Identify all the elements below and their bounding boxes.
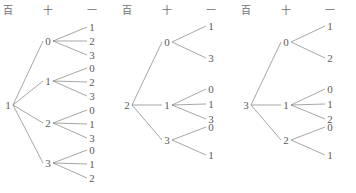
edge-tens-0-to-ones-0	[291, 26, 325, 42]
edge-tens-0-to-ones-0	[53, 27, 87, 41]
edge-root-to-tens-0	[132, 42, 162, 105]
node-ones-digit: 1	[89, 119, 95, 130]
tree-edges-2	[119, 0, 237, 193]
node-tens-digit: 1	[45, 76, 51, 87]
node-tens-digit: 0	[283, 37, 289, 48]
edge-tens-1-to-ones-0	[291, 89, 325, 105]
node-tens-digit: 0	[164, 37, 170, 48]
node-tens-digit: 2	[283, 135, 289, 146]
node-ones-digit: 0	[89, 105, 95, 116]
tree-diagram-figure: 百十一10123102320133012百十一20131013301百十一301…	[0, 0, 356, 193]
edge-tens-2-to-ones-1	[291, 140, 325, 155]
edge-root-to-tens-2	[132, 105, 162, 140]
node-tens-digit: 1	[283, 100, 289, 111]
edge-tens-1-to-ones-0	[53, 68, 87, 81]
edge-tens-1-to-ones-1	[172, 104, 206, 105]
node-hundreds-digit: 2	[124, 100, 130, 111]
tree-panel-2: 百十一20131013301	[119, 0, 237, 193]
edge-tens-2-to-ones-2	[53, 123, 87, 138]
node-ones-digit: 0	[327, 84, 333, 95]
node-ones-digit: 2	[89, 36, 95, 47]
node-ones-digit: 0	[327, 122, 333, 133]
node-ones-digit: 1	[89, 22, 95, 33]
node-ones-digit: 3	[89, 133, 95, 144]
node-ones-digit: 3	[89, 91, 95, 102]
node-tens-digit: 2	[45, 118, 51, 129]
edge-tens-2-to-ones-0	[53, 110, 87, 123]
edge-tens-3-to-ones-0	[53, 150, 87, 163]
node-ones-digit: 2	[89, 173, 95, 184]
node-tens-digit: 1	[164, 100, 170, 111]
edge-tens-1-to-ones-1	[291, 104, 325, 105]
node-tens-digit: 3	[45, 158, 51, 169]
edge-tens-0-to-ones-1	[291, 42, 325, 58]
node-ones-digit: 3	[89, 50, 95, 61]
edge-tens-0-to-ones-2	[53, 41, 87, 55]
tree-edges-1	[0, 0, 118, 193]
node-hundreds-digit: 3	[243, 100, 249, 111]
edge-tens-3-to-ones-2	[53, 163, 87, 178]
node-ones-digit: 1	[208, 99, 214, 110]
tree-panel-3: 百十一30121012201	[238, 0, 356, 193]
node-ones-digit: 1	[327, 150, 333, 161]
tree-edges-3	[238, 0, 356, 193]
node-ones-digit: 0	[89, 145, 95, 156]
node-ones-digit: 1	[327, 99, 333, 110]
edge-root-to-tens-2	[251, 105, 281, 140]
edge-root-to-tens-1	[13, 81, 43, 105]
edge-tens-2-to-ones-1	[53, 123, 87, 124]
edge-tens-1-to-ones-2	[172, 105, 206, 119]
node-ones-digit: 3	[208, 53, 214, 64]
edge-tens-2-to-ones-0	[172, 127, 206, 140]
edge-tens-1-to-ones-0	[172, 89, 206, 105]
node-ones-digit: 1	[89, 159, 95, 170]
edge-tens-2-to-ones-0	[291, 127, 325, 140]
edge-tens-0-to-ones-1	[172, 42, 206, 58]
edge-tens-3-to-ones-1	[53, 163, 87, 164]
edge-tens-0-to-ones-0	[172, 26, 206, 42]
node-ones-digit: 2	[89, 77, 95, 88]
node-ones-digit: 1	[327, 21, 333, 32]
node-tens-digit: 0	[45, 36, 51, 47]
node-ones-digit: 0	[89, 63, 95, 74]
node-ones-digit: 0	[208, 122, 214, 133]
edge-root-to-tens-0	[13, 41, 43, 105]
edge-tens-1-to-ones-2	[291, 105, 325, 119]
tree-panel-1: 百十一10123102320133012	[0, 0, 118, 193]
node-tens-digit: 3	[164, 135, 170, 146]
node-ones-digit: 2	[327, 53, 333, 64]
node-ones-digit: 0	[208, 84, 214, 95]
edge-tens-1-to-ones-1	[53, 81, 87, 82]
edge-tens-2-to-ones-1	[172, 140, 206, 155]
node-ones-digit: 1	[208, 21, 214, 32]
edge-tens-1-to-ones-2	[53, 81, 87, 96]
node-ones-digit: 1	[208, 150, 214, 161]
node-hundreds-digit: 1	[5, 100, 11, 111]
edge-root-to-tens-0	[251, 42, 281, 105]
